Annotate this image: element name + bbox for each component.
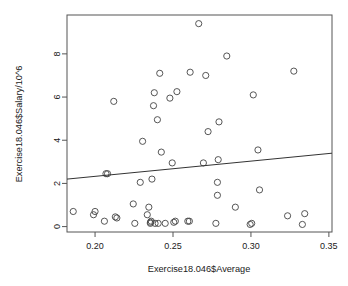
plot-canvas: 02468 0.200.250.300.35 Exercise18.046$Av…	[0, 0, 348, 286]
data-point	[130, 201, 136, 207]
data-point	[214, 179, 220, 185]
y-tick-label: 8	[52, 51, 62, 56]
y-axis-label: Exercise18.046$Salary/10^6	[14, 66, 24, 183]
data-point	[114, 215, 120, 221]
data-point	[154, 117, 160, 123]
x-axis-label: Exercise18.046$Average	[148, 264, 251, 274]
data-point	[101, 218, 107, 224]
data-point	[132, 220, 138, 226]
regression-line	[67, 153, 332, 179]
data-point	[172, 218, 178, 224]
data-point	[256, 187, 262, 193]
data-point	[205, 129, 211, 135]
data-point	[149, 176, 155, 182]
data-point	[302, 211, 308, 217]
y-tick-label: 0	[52, 224, 62, 229]
x-tick-label: 0.25	[164, 241, 182, 251]
data-point	[203, 72, 209, 78]
x-tick-label: 0.35	[320, 241, 338, 251]
data-point	[224, 53, 230, 59]
data-point	[284, 213, 290, 219]
data-point	[213, 220, 219, 226]
y-tick-label: 2	[52, 181, 62, 186]
data-point	[174, 89, 180, 95]
data-point	[158, 149, 164, 155]
data-point	[144, 212, 150, 218]
y-tick-label: 6	[52, 95, 62, 100]
data-point	[111, 98, 117, 104]
data-point	[162, 220, 168, 226]
plot-frame	[67, 15, 332, 232]
data-point	[140, 138, 146, 144]
data-point	[215, 157, 221, 163]
data-point	[70, 208, 76, 214]
data-point	[157, 70, 163, 76]
x-axis-ticks: 0.200.250.300.35	[86, 232, 337, 251]
x-tick-label: 0.20	[86, 241, 104, 251]
data-points	[70, 21, 308, 228]
data-point	[255, 147, 261, 153]
x-tick-label: 0.30	[242, 241, 260, 251]
data-point	[146, 204, 152, 210]
data-point	[291, 68, 297, 74]
data-point	[216, 119, 222, 125]
data-point	[250, 92, 256, 98]
data-point	[249, 220, 255, 226]
data-point	[232, 204, 238, 210]
data-point	[299, 221, 305, 227]
scatter-plot-figure: 02468 0.200.250.300.35 Exercise18.046$Av…	[0, 0, 348, 286]
data-point	[187, 69, 193, 75]
data-point	[137, 179, 143, 185]
data-point	[150, 103, 156, 109]
y-axis-ticks: 02468	[52, 51, 67, 229]
data-point	[167, 95, 173, 101]
data-point	[169, 160, 175, 166]
data-point	[151, 90, 157, 96]
data-point	[196, 21, 202, 27]
data-point	[214, 192, 220, 198]
y-tick-label: 4	[52, 138, 62, 143]
